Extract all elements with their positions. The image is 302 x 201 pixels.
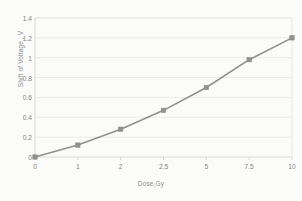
data-point-marker bbox=[33, 155, 37, 159]
data-point-marker bbox=[161, 108, 165, 112]
data-point-marker bbox=[204, 85, 208, 89]
x-axis-title: Dose,Gy bbox=[0, 180, 302, 187]
data-point-marker bbox=[290, 36, 294, 40]
plot-area bbox=[0, 0, 302, 201]
data-point-marker bbox=[247, 58, 251, 62]
chart-figure: Shift of Voltage , V 00.20.40.60.811.21.… bbox=[0, 0, 302, 201]
data-point-marker bbox=[118, 127, 122, 131]
plot-background bbox=[35, 18, 292, 157]
data-point-marker bbox=[76, 143, 80, 147]
